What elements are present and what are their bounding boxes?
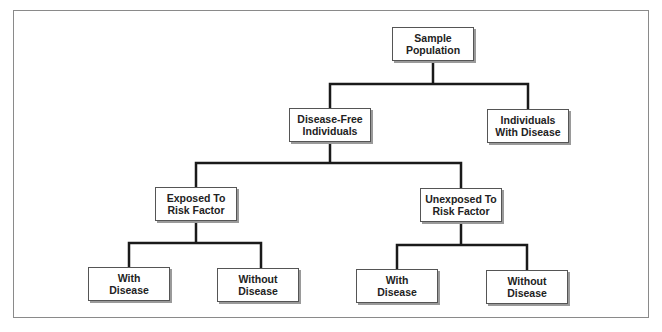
node-label-line: Unexposed To [425,193,497,205]
node-exposed-without-disease: WithoutDisease [217,268,299,302]
node-label-line: Risk Factor [432,205,489,217]
node-label-line: Sample [414,32,451,44]
node-label-line: Disease [109,284,149,296]
node-label-line: With Disease [495,126,560,138]
node-label-line: With [118,272,141,284]
node-label-line: Disease-Free [297,113,362,125]
node-label-line: Exposed To [167,192,226,204]
node-individuals-with-disease: IndividualsWith Disease [487,109,569,143]
node-unexposed-to-risk-factor: Unexposed ToRisk Factor [420,188,502,222]
node-label-line: Disease [377,286,417,298]
node-sample-population: SamplePopulation [392,27,474,61]
node-label-line: Individuals [303,125,358,137]
node-label-line: Individuals [501,114,556,126]
node-label-line: Population [406,44,460,56]
node-label-line: With [386,274,409,286]
node-exposed-to-risk-factor: Exposed ToRisk Factor [155,187,237,221]
node-label-line: Without [239,273,278,285]
node-exposed-with-disease: WithDisease [88,267,170,301]
node-label-line: Disease [238,285,278,297]
node-unexposed-with-disease: WithDisease [356,269,438,303]
node-unexposed-without-disease: WithoutDisease [486,270,568,304]
node-label-line: Disease [507,287,547,299]
node-disease-free-individuals: Disease-FreeIndividuals [289,108,371,142]
node-label-line: Without [508,275,547,287]
node-label-line: Risk Factor [167,204,224,216]
